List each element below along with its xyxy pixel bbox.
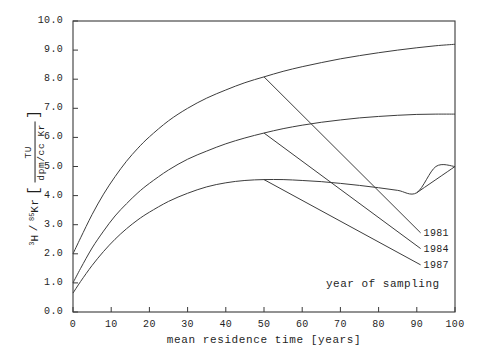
x-tick-label: 70 bbox=[334, 320, 347, 330]
data-curves bbox=[73, 44, 455, 293]
curve-1987 bbox=[73, 165, 455, 294]
series-label-1987: 1987 bbox=[424, 259, 449, 270]
y-axis-slash: / bbox=[28, 224, 40, 231]
species-h: H bbox=[29, 234, 41, 241]
bracket-open-icon: [ bbox=[27, 186, 42, 196]
legend-caption: year of sampling bbox=[326, 278, 440, 290]
x-tick-label: 30 bbox=[181, 320, 194, 330]
species-kr: Kr bbox=[29, 198, 41, 212]
bracket-close-icon: ] bbox=[27, 109, 42, 119]
unit-fraction: TU dpm/cc Kr bbox=[24, 122, 47, 183]
x-tick-label: 0 bbox=[70, 320, 76, 330]
y-tick-label: 9.0 bbox=[0, 45, 63, 55]
series-label-1984: 1984 bbox=[424, 243, 449, 254]
series-label-1981: 1981 bbox=[424, 227, 449, 238]
x-tick-label: 20 bbox=[143, 320, 156, 330]
superscript-85: 85 bbox=[27, 213, 35, 221]
plot-canvas bbox=[0, 0, 479, 364]
chart-figure: 0.01.02.03.04.05.06.07.08.09.010.0 01020… bbox=[0, 0, 479, 364]
leader-line-1984 bbox=[264, 133, 421, 249]
x-axis-title: mean residence time [years] bbox=[167, 334, 361, 346]
axis-ticks bbox=[73, 21, 455, 312]
y-tick-label: 1.0 bbox=[0, 278, 63, 288]
segment-1987-tail bbox=[417, 167, 455, 193]
x-tick-label: 60 bbox=[296, 320, 309, 330]
leader-line-1987 bbox=[264, 180, 421, 265]
x-tick-label: 80 bbox=[372, 320, 385, 330]
y-axis-isotope-2: 85Kr bbox=[27, 198, 41, 221]
curve-1984 bbox=[73, 114, 455, 283]
x-tick-label: 50 bbox=[258, 320, 271, 330]
axes-frame bbox=[73, 21, 455, 312]
x-tick-label: 90 bbox=[410, 320, 423, 330]
x-tick-label: 10 bbox=[105, 320, 118, 330]
y-tick-label: 10.0 bbox=[0, 16, 63, 26]
unit-denominator: dpm/cc Kr bbox=[35, 122, 47, 183]
unit-numerator: TU bbox=[24, 144, 35, 161]
superscript-3: 3 bbox=[27, 241, 35, 245]
curve-1981 bbox=[73, 44, 455, 254]
y-axis-isotope-1: 3H bbox=[27, 234, 41, 245]
y-tick-label: 0.0 bbox=[0, 307, 63, 317]
x-tick-label: 40 bbox=[219, 320, 232, 330]
leader-lines bbox=[264, 77, 421, 265]
leader-line-1981 bbox=[264, 77, 421, 233]
x-tick-label: 100 bbox=[446, 320, 465, 330]
y-axis-title: 3H / 85Kr [ TU dpm/cc Kr ] bbox=[23, 77, 46, 277]
